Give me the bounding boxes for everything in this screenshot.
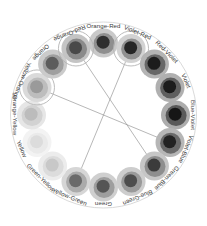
color-swatch[interactable] [17, 101, 46, 130]
swatch-label: Green [95, 201, 112, 208]
swatch-core-shade [148, 159, 161, 172]
swatch-core-shade [69, 174, 82, 187]
swatch-core-shade [163, 135, 176, 148]
color-wheel-widget[interactable]: Orange-RedViolet-RedRed-VioletVioletBlue… [0, 0, 207, 226]
color-swatch[interactable] [89, 29, 118, 58]
swatch-core-shade [124, 41, 137, 54]
color-swatch[interactable] [89, 173, 118, 202]
color-wheel-canvas[interactable]: Orange-RedViolet-RedRed-VioletVioletBlue… [0, 0, 207, 226]
color-swatch[interactable] [117, 167, 146, 196]
swatch-core-shade [30, 80, 43, 93]
connector-line [37, 87, 170, 142]
swatch-core-shade [46, 159, 59, 172]
swatch-core-shade [169, 108, 182, 121]
swatch-core-shade [25, 108, 38, 121]
swatch-core-shade [148, 57, 161, 70]
swatch-core-shade [124, 174, 137, 187]
swatch-core-shade [163, 80, 176, 93]
color-swatch[interactable] [161, 101, 190, 130]
swatch-core-shade [69, 41, 82, 54]
swatch-label: Orange-Red [86, 22, 120, 29]
color-swatch[interactable] [156, 73, 185, 102]
swatch-core-shade [97, 180, 110, 193]
swatch-core-shade [30, 135, 43, 148]
swatch-label: Blue-Violet [190, 100, 197, 130]
swatch-core-shade [97, 36, 110, 49]
swatch-core-shade [46, 57, 59, 70]
